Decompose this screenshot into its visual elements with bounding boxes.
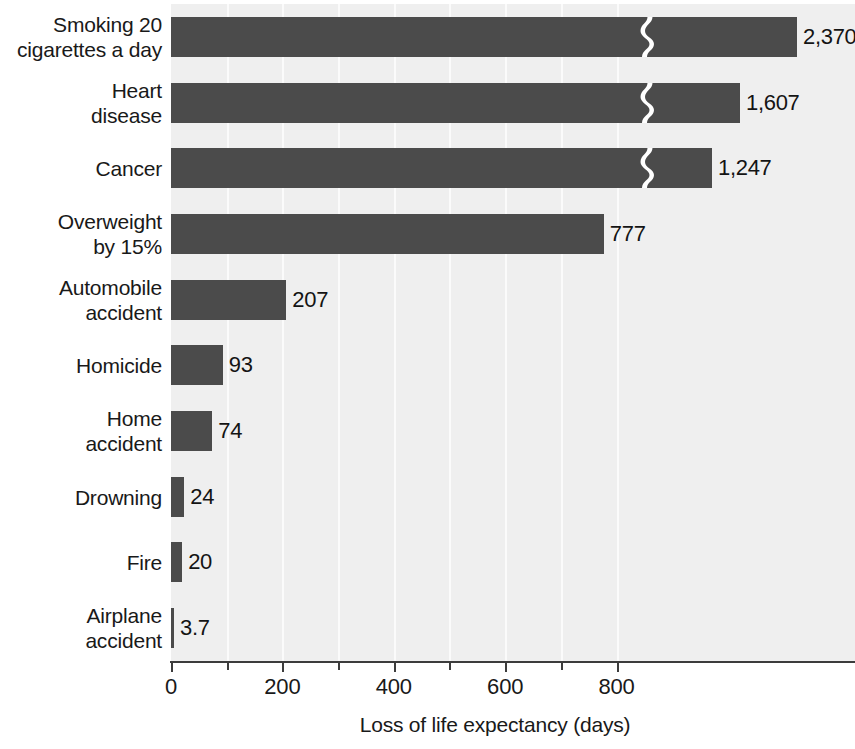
x-tick	[282, 661, 284, 672]
bar-value-label: 207	[292, 280, 328, 320]
x-tick-label: 600	[460, 674, 550, 700]
category-label: Homicide	[0, 353, 162, 378]
x-tick-label: 400	[349, 674, 439, 700]
category-label: Home accident	[0, 406, 162, 456]
bar-value-label: 2,370	[803, 17, 855, 57]
x-axis-line	[170, 661, 855, 663]
bar	[171, 608, 174, 648]
category-label: Automobile accident	[0, 275, 162, 325]
category-label: Heart disease	[0, 78, 162, 128]
bar	[171, 148, 712, 188]
category-label: Cancer	[0, 156, 162, 181]
bar-value-label: 93	[229, 345, 253, 385]
x-tick-label: 0	[126, 674, 216, 700]
bar-value-label: 1,247	[718, 148, 772, 188]
x-tick	[171, 661, 173, 672]
category-label: Airplane accident	[0, 603, 162, 653]
bar-value-label: 20	[188, 542, 212, 582]
bar	[171, 411, 212, 451]
category-label: Smoking 20 cigarettes a day	[0, 12, 162, 62]
x-tick-label: 200	[237, 674, 327, 700]
bar	[171, 280, 286, 320]
life-expectancy-bar-chart: 0200400600800 Loss of life expectancy (d…	[0, 0, 855, 749]
bar	[171, 214, 604, 254]
x-tick	[505, 661, 507, 672]
x-tick	[338, 661, 340, 670]
bar	[171, 83, 740, 123]
x-axis-title: Loss of life expectancy (days)	[0, 713, 855, 737]
bar	[171, 345, 223, 385]
bar	[171, 17, 797, 57]
x-tick	[394, 661, 396, 672]
bar-value-label: 24	[190, 477, 214, 517]
bar-value-label: 777	[610, 214, 646, 254]
x-tick-label: 800	[572, 674, 662, 700]
bar-value-label: 74	[218, 411, 242, 451]
category-label: Overweight by 15%	[0, 209, 162, 259]
x-tick	[227, 661, 229, 670]
bar-value-label: 3.7	[180, 608, 210, 648]
x-tick	[617, 661, 619, 672]
bar-value-label: 1,607	[746, 83, 800, 123]
x-tick	[449, 661, 451, 670]
category-label: Fire	[0, 550, 162, 575]
bar	[171, 477, 184, 517]
x-tick	[561, 661, 563, 670]
bar	[171, 542, 182, 582]
category-label: Drowning	[0, 484, 162, 509]
